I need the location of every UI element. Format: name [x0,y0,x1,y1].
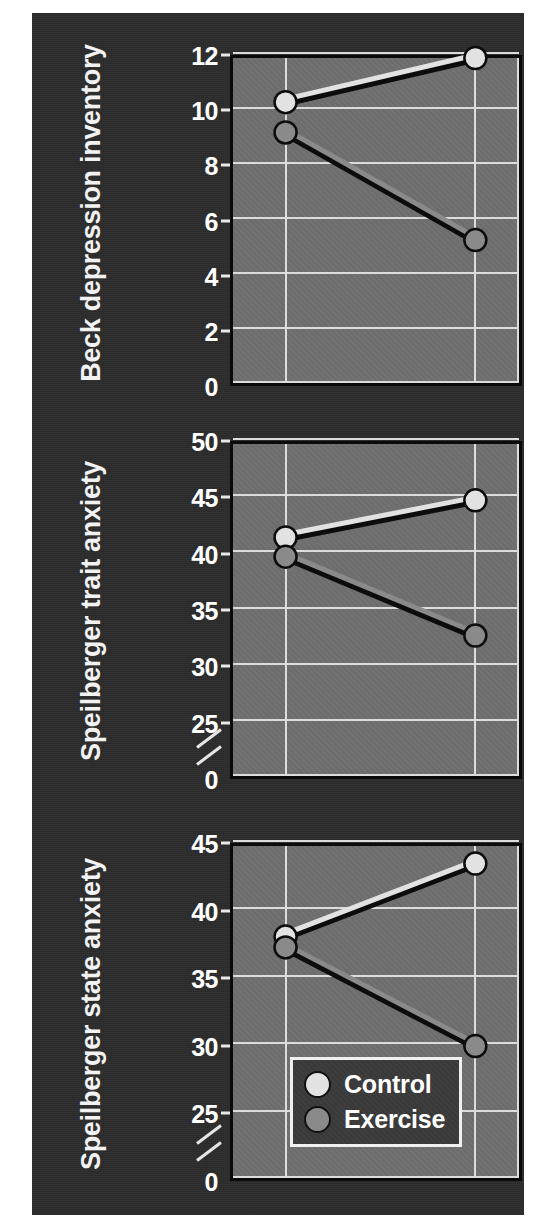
y-axis-tick-mark [221,164,230,167]
legend-label-control: Control [344,1072,431,1097]
y-axis-tick-mark [221,274,230,277]
y-axis-tick-label: 40 [32,542,218,567]
y-axis-tick-label: 10 [32,99,218,124]
data-point-marker [275,91,297,113]
series-line-outline [286,132,476,240]
chart-panel-speilberger-trait-anxiety: Speilberger trait anxiety 0253035404550 [32,411,524,811]
y-axis-tick-mark [221,665,230,668]
data-point-marker [464,853,486,875]
chart-panel-beck-depression-inventory: Beck depression inventory 024681012 [32,13,524,411]
data-point-marker [464,1035,486,1057]
series-layer [233,58,524,389]
series-line [286,861,476,934]
legend: Control Exercise [290,1057,462,1147]
data-point-marker [464,625,486,647]
legend-label-exercise: Exercise [344,1107,445,1132]
gridline-horizontal [233,840,519,842]
series-line [286,129,476,237]
y-axis-tick-label: 12 [32,44,218,69]
y-axis-tick-label: 45 [32,832,218,857]
y-axis-tick-label: 30 [32,1034,218,1059]
series-line [286,554,476,633]
y-axis-tick-label: 25 [32,1102,218,1127]
gridline-horizontal [233,438,519,440]
y-axis-title-label: Speilberger state anxiety [77,839,105,1189]
series-line-outline [286,864,476,937]
data-point-marker [464,47,486,69]
series-layer [233,444,524,782]
y-axis-tick-label: 50 [32,430,218,455]
y-axis-tick-label: 4 [32,264,218,289]
series-line [286,497,476,534]
data-point-marker [275,936,297,958]
y-axis-tick-mark [221,496,230,499]
y-axis-tick-label: 0 [32,768,218,793]
data-point-marker [275,546,297,568]
chart-panel-speilberger-state-anxiety: Speilberger state anxiety 02530354045 Co… [32,811,524,1215]
data-point-marker [464,229,486,251]
legend-item-control[interactable]: Control [304,1067,445,1102]
y-axis-tick-mark [221,977,230,980]
series-line [286,55,476,99]
y-axis-tick-mark [221,1112,230,1115]
y-axis-tick-label: 35 [32,599,218,624]
series-line-outline [286,947,476,1046]
y-axis-tick-mark [221,219,230,222]
y-axis-tick-label: 2 [32,319,218,344]
data-point-marker [464,489,486,511]
series-line-outline [286,58,476,102]
y-axis-tick-label: 0 [32,1170,218,1195]
series-line [286,944,476,1043]
y-axis-tick-label: 8 [32,154,218,179]
legend-item-exercise[interactable]: Exercise [304,1102,445,1137]
data-point-marker [275,121,297,143]
y-axis-tick-mark [221,54,230,57]
y-axis-tick-mark [221,909,230,912]
y-axis-tick-mark [221,1044,230,1047]
y-axis-tick-mark [221,440,230,443]
series-line-outline [286,500,476,537]
legend-marker-exercise-icon [304,1106,331,1133]
plot-frame [230,55,522,386]
y-axis-tick-label: 40 [32,899,218,924]
y-axis-tick-label: 30 [32,655,218,680]
series-line-outline [286,557,476,636]
y-axis-break-marker [194,1133,234,1167]
y-axis-tick-label: 45 [32,486,218,511]
y-axis-tick-label: 6 [32,209,218,234]
y-axis-tick-mark [221,721,230,724]
y-axis-tick-label: 35 [32,967,218,992]
y-axis-tick-label: 25 [32,711,218,736]
y-axis-tick-label: 0 [32,375,218,400]
figure-canvas: Beck depression inventory 024681012 Spei… [32,13,524,1215]
y-axis-tick-mark [221,329,230,332]
y-axis-tick-mark [221,552,230,555]
y-axis-tick-mark [221,842,230,845]
y-axis-tick-mark [221,609,230,612]
y-axis-tick-mark [221,109,230,112]
legend-marker-control-icon [304,1071,331,1098]
plot-frame [230,441,522,779]
